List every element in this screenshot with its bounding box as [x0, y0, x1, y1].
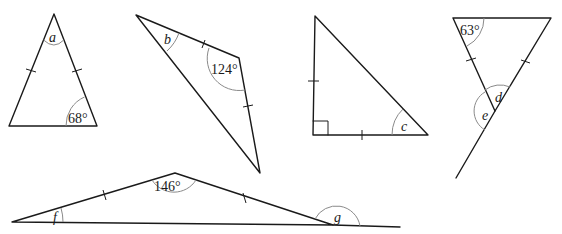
right-angle-marker	[313, 121, 328, 135]
triangle-b: b 124°	[136, 15, 260, 173]
angle-label-g: g	[334, 210, 341, 225]
angle-label-a: a	[49, 30, 56, 45]
triangle-angle-diagram: a 68° b 124° c 63° d e	[0, 0, 562, 234]
extended-side-line	[456, 111, 495, 178]
triangle-de: 63° d e	[453, 18, 551, 178]
triangle-c: c	[308, 16, 428, 140]
angle-label-e: e	[482, 108, 488, 123]
equal-side-tick-right	[72, 69, 82, 72]
angle-label-c: c	[401, 119, 408, 134]
angle-label-63: 63°	[460, 23, 480, 38]
angle-arc-f	[61, 208, 63, 222]
equal-side-tick-right	[243, 193, 246, 203]
triangle-fg: 146° f g	[12, 173, 400, 227]
triangle-b-outline	[136, 15, 260, 173]
triangle-c-outline	[313, 16, 428, 135]
extended-base-line	[333, 225, 400, 227]
angle-label-124: 124°	[211, 62, 238, 77]
angle-label-d: d	[495, 90, 503, 105]
angle-label-146: 146°	[154, 179, 181, 194]
angle-label-68: 68°	[68, 111, 88, 126]
angle-label-b: b	[164, 32, 171, 47]
triangle-a: a 68°	[9, 14, 97, 126]
